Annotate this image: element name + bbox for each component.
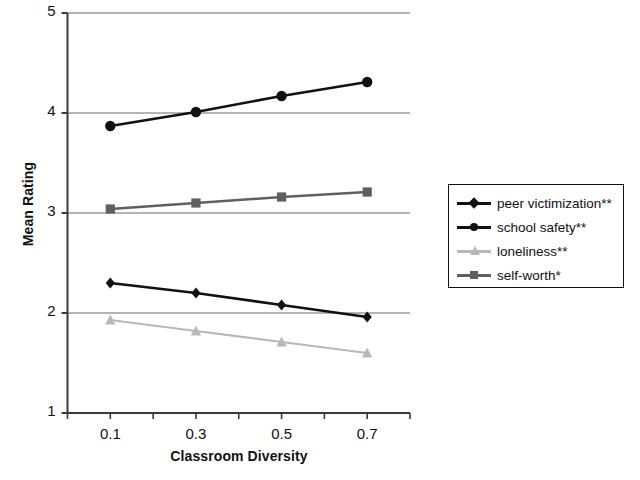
x-axis-tick-label: 0.5 [252, 425, 312, 442]
legend-item-label: school safety** [497, 220, 586, 235]
series-line [110, 283, 367, 317]
data-point-marker [191, 198, 200, 207]
chart-figure: Mean Rating Classroom Diversity 12345 0.… [0, 0, 640, 480]
x-axis-tick-label: 0.1 [80, 425, 140, 442]
legend-item[interactable]: self-worth* [449, 263, 623, 287]
legend-square-icon [457, 268, 491, 282]
legend-item-label: peer victimization** [497, 196, 612, 211]
data-point-marker [277, 299, 286, 310]
legend-item-label: self-worth* [497, 268, 561, 283]
chart-legend: peer victimization**school safety**lonel… [448, 184, 624, 288]
data-point-marker [106, 204, 115, 213]
data-point-marker [276, 91, 286, 101]
legend-item[interactable]: school safety** [449, 215, 623, 239]
data-point-marker [106, 277, 115, 288]
x-axis-title: Classroom Diversity [68, 448, 410, 464]
data-point-marker [191, 287, 200, 298]
legend-triangle-icon [457, 244, 491, 258]
y-axis-tick-label: 2 [30, 302, 56, 319]
series-line [110, 82, 367, 126]
legend-diamond-icon [457, 196, 491, 210]
legend-circle-icon [457, 220, 491, 234]
series-2 [105, 314, 372, 357]
y-axis-tick-label: 1 [30, 402, 56, 419]
data-point-marker [277, 192, 286, 201]
data-point-marker [362, 77, 372, 87]
series-1 [105, 77, 372, 131]
y-axis-tick-label: 3 [30, 202, 56, 219]
data-point-marker [363, 187, 372, 196]
legend-item[interactable]: loneliness** [449, 239, 623, 263]
x-axis-tick-label: 0.3 [166, 425, 226, 442]
legend-item[interactable]: peer victimization** [449, 191, 623, 215]
data-point-marker [105, 121, 115, 131]
series-line [110, 320, 367, 353]
y-axis-tick-label: 5 [30, 2, 56, 19]
x-axis-tick-label: 0.7 [337, 425, 397, 442]
legend-item-label: loneliness** [497, 244, 568, 259]
series-line [110, 192, 367, 209]
series-3 [106, 187, 372, 213]
data-point-marker [191, 107, 201, 117]
series-0 [106, 277, 372, 322]
y-axis-tick-label: 4 [30, 102, 56, 119]
